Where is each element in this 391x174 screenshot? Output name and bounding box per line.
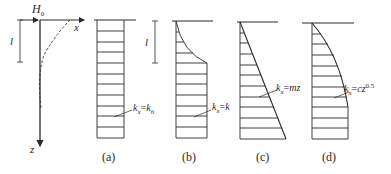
deflection-curve	[40, 20, 70, 108]
formula-a: kx=kh	[133, 103, 154, 116]
load-label: H0	[32, 3, 44, 18]
z-axis-label: z	[30, 144, 34, 155]
leader-line	[259, 90, 277, 97]
panel-d-diagram	[302, 23, 354, 139]
diagram-canvas	[0, 0, 391, 174]
length-label-b: l	[145, 37, 148, 48]
panel-b-diagram	[152, 21, 213, 138]
formula-c: kx=mz	[276, 83, 300, 96]
formula-d: kx=cz0.5	[344, 83, 374, 97]
panel-c-diagram	[237, 22, 286, 139]
caption-b: (b)	[182, 151, 196, 163]
caption-d: (d)	[322, 151, 336, 163]
length-label: l	[10, 36, 13, 47]
x-axis-label: x	[74, 22, 79, 33]
pile-diagram	[17, 20, 84, 146]
caption-c: (c)	[256, 151, 269, 163]
panel-a-diagram	[94, 20, 136, 138]
formula-b: kx=k	[212, 102, 230, 115]
caption-a: (a)	[102, 151, 115, 163]
